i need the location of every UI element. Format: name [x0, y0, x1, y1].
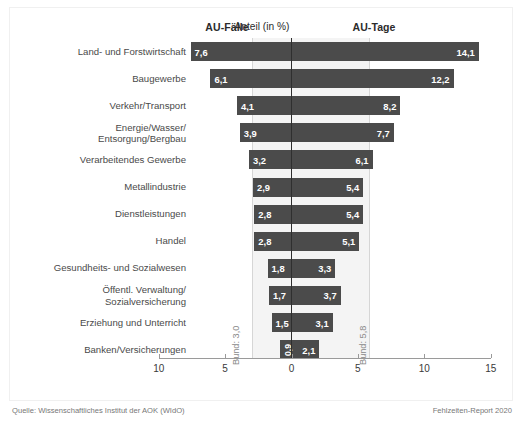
x-axis-title: Anteil (in %)	[0, 21, 524, 32]
bar-value-au-tage: 8,2	[383, 100, 396, 111]
chart-row: Energie/Wasser/ Entsorgung/Bergbau3,97,7	[0, 119, 524, 146]
axis-tick	[491, 354, 492, 358]
bar-value-au-faelle: 7,6	[195, 46, 208, 57]
diverging-bar: 2,85,1	[254, 232, 359, 251]
diverging-bar: 3,26,1	[249, 150, 373, 169]
axis-tick-label: 5	[343, 363, 373, 374]
diverging-bar: 3,97,7	[240, 123, 394, 142]
x-axis: 105051015	[0, 358, 524, 398]
bar-value-au-tage: 7,7	[377, 127, 390, 138]
diverging-bar: 1,83,3	[268, 259, 336, 278]
chart-figure: AU-Fälle AU-Tage Land- und Forstwirtscha…	[0, 0, 524, 425]
chart-row: Handel2,85,1	[0, 228, 524, 255]
bar-value-au-tage: 5,4	[346, 209, 359, 220]
axis-tick-label: 0	[277, 363, 307, 374]
bar-value-au-faelle: 1,7	[273, 290, 286, 301]
diverging-bar: 4,18,2	[237, 96, 400, 115]
bar-value-au-faelle: 1,5	[276, 317, 289, 328]
category-label: Öffentl. Verwaltung/ Sozialversicherung	[8, 284, 186, 307]
axis-tick	[358, 354, 359, 358]
diverging-bar: 2,95,4	[253, 178, 363, 197]
category-label: Gesundheits- und Sozialwesen	[8, 263, 186, 274]
footer-source: Quelle: Wissenschaftliches Institut der …	[12, 406, 185, 415]
axis-tick	[225, 354, 226, 358]
category-label: Metallindustrie	[8, 181, 186, 192]
bar-value-au-tage: 2,1	[302, 344, 315, 355]
chart-row: Dienstleistungen2,85,4	[0, 201, 524, 228]
bar-value-au-faelle: 6,1	[214, 73, 227, 84]
diverging-bar: 6,112,2	[210, 69, 453, 88]
chart-row: Verkehr/Transport4,18,2	[0, 92, 524, 119]
axis-baseline	[159, 358, 491, 359]
category-label: Baugewerbe	[8, 73, 186, 84]
diverging-bar: 7,614,1	[191, 42, 479, 61]
category-label: Dienstleistungen	[8, 208, 186, 219]
footer-report: Fehlzeiten-Report 2020	[433, 406, 512, 415]
bar-value-au-faelle: 4,1	[241, 100, 254, 111]
category-label: Land- und Forstwirtschaft	[8, 46, 186, 57]
chart-row: Öffentl. Verwaltung/ Sozialversicherung1…	[0, 282, 524, 309]
bar-value-au-tage: 12,2	[431, 73, 449, 84]
bar-value-au-tage: 3,1	[316, 317, 329, 328]
axis-tick-label: 10	[409, 363, 439, 374]
chart-row: Metallindustrie2,95,4	[0, 174, 524, 201]
chart-row: Erziehung und Unterricht1,53,1	[0, 309, 524, 336]
axis-tick	[292, 354, 293, 358]
bar-value-au-faelle: 3,9	[244, 127, 257, 138]
axis-tick-label: 15	[476, 363, 506, 374]
category-label: Energie/Wasser/ Entsorgung/Bergbau	[8, 121, 186, 144]
bar-value-au-tage: 3,3	[318, 263, 331, 274]
zero-axis-line	[291, 38, 292, 358]
diverging-bar: 0,92,1	[280, 340, 320, 359]
bar-value-au-tage: 3,7	[324, 290, 337, 301]
bar-value-au-tage: 6,1	[355, 154, 368, 165]
bar-value-au-tage: 5,4	[346, 182, 359, 193]
diverging-bar: 1,53,1	[272, 313, 333, 332]
category-label: Erziehung und Unterricht	[8, 317, 186, 328]
plot-area: Land- und Forstwirtschaft7,614,1Baugewer…	[0, 38, 524, 358]
axis-tick	[159, 354, 160, 358]
chart-row: Gesundheits- und Sozialwesen1,83,3	[0, 255, 524, 282]
bar-value-au-faelle: 3,2	[253, 154, 266, 165]
axis-tick-label: 5	[210, 363, 240, 374]
diverging-bar: 1,73,7	[269, 286, 341, 305]
diverging-bar: 2,85,4	[254, 205, 363, 224]
category-label: Verkehr/Transport	[8, 100, 186, 111]
category-label: Handel	[8, 235, 186, 246]
bar-value-au-tage: 14,1	[456, 46, 474, 57]
axis-tick	[424, 354, 425, 358]
bar-value-au-faelle: 2,8	[258, 236, 271, 247]
chart-row: Verarbeitendes Gewerbe3,26,1	[0, 146, 524, 173]
category-label: Verarbeitendes Gewerbe	[8, 154, 186, 165]
axis-tick-label: 10	[144, 363, 174, 374]
chart-row: Land- und Forstwirtschaft7,614,1	[0, 38, 524, 65]
bar-value-au-faelle: 2,9	[257, 182, 270, 193]
bar-value-au-faelle: 1,8	[272, 263, 285, 274]
chart-row: Baugewerbe6,112,2	[0, 65, 524, 92]
bar-value-au-tage: 5,1	[342, 236, 355, 247]
bar-value-au-faelle: 2,8	[258, 209, 271, 220]
